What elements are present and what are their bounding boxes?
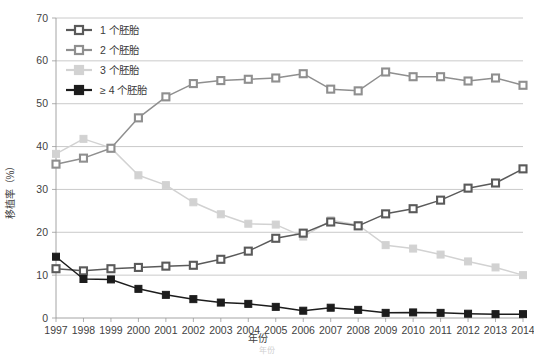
line-chart: 010203040506070 199719981999200020012002… (0, 0, 534, 355)
legend-marker-swatch (75, 66, 83, 74)
data-point (162, 93, 169, 100)
data-point (53, 161, 60, 168)
data-point (162, 182, 169, 189)
data-point (437, 197, 444, 204)
data-point (53, 253, 60, 260)
x-tick-label-2003: 2003 (209, 324, 233, 336)
legend-label: 2 个胚胎 (100, 44, 140, 56)
data-point (382, 69, 389, 76)
x-tick-label-2009: 2009 (374, 324, 398, 336)
data-point (135, 285, 142, 292)
data-point (465, 78, 472, 85)
x-axis-title: 年份 (248, 332, 268, 344)
legend-marker-swatch (75, 86, 83, 94)
legend-item-3[interactable]: 3 个胚胎 (66, 64, 140, 76)
x-tick-label-2011: 2011 (429, 324, 452, 336)
data-point (382, 309, 389, 316)
y-axis-title: 移植率（%） (4, 161, 16, 220)
y-tick-label-50: 50 (36, 97, 48, 109)
data-point (107, 265, 114, 272)
data-point (245, 220, 252, 227)
legend-label: 1 个胚胎 (100, 24, 140, 36)
caption-group: 年份 (259, 345, 275, 355)
data-point (162, 291, 169, 298)
data-point (217, 77, 224, 84)
data-point (437, 309, 444, 316)
y-tick-label-60: 60 (36, 54, 48, 66)
data-point (465, 310, 472, 317)
data-point (410, 309, 417, 316)
data-point (272, 221, 279, 228)
data-point (410, 73, 417, 80)
data-point (300, 70, 307, 77)
x-tick-label-2008: 2008 (346, 324, 370, 336)
data-point (217, 211, 224, 218)
data-point (80, 267, 87, 274)
data-point (382, 210, 389, 217)
data-point (327, 86, 334, 93)
y-tick-label-40: 40 (36, 140, 48, 152)
data-point (355, 306, 362, 313)
data-point (190, 199, 197, 206)
legend-item-2[interactable]: 2 个胚胎 (66, 44, 140, 56)
data-point (272, 75, 279, 82)
data-point (217, 256, 224, 263)
legend-label: ≥ 4 个胚胎 (100, 84, 148, 96)
data-point (355, 222, 362, 229)
data-point (410, 205, 417, 212)
data-point (520, 272, 527, 279)
figure-caption: 年份 (259, 345, 275, 355)
x-tick-label-2000: 2000 (127, 324, 151, 336)
y-tick-label-30: 30 (36, 183, 48, 195)
x-tick-label-2001: 2001 (154, 324, 178, 336)
data-point (492, 264, 499, 271)
legend-marker-swatch (75, 46, 83, 54)
data-point (80, 135, 87, 142)
data-point (300, 307, 307, 314)
data-point (465, 258, 472, 265)
x-tick-label-2002: 2002 (182, 324, 206, 336)
data-point (80, 276, 87, 283)
legend-label: 3 个胚胎 (100, 64, 140, 76)
data-point (492, 75, 499, 82)
data-point (300, 230, 307, 237)
legend-marker-swatch (75, 26, 83, 34)
data-point (190, 80, 197, 87)
data-point (520, 165, 527, 172)
x-tick-label-2012: 2012 (456, 324, 480, 336)
x-tick-label-2014: 2014 (511, 324, 534, 336)
y-tick-label-70: 70 (36, 12, 48, 24)
data-point (465, 185, 472, 192)
x-tick-label-1998: 1998 (72, 324, 96, 336)
data-point (245, 300, 252, 307)
data-point (327, 219, 334, 226)
legend-item-1[interactable]: 1 个胚胎 (66, 24, 140, 36)
data-point (520, 311, 527, 318)
data-point (437, 251, 444, 258)
data-point (190, 296, 197, 303)
data-point (135, 114, 142, 121)
data-point (53, 150, 60, 157)
data-point (80, 155, 87, 162)
data-point (492, 180, 499, 187)
y-tick-label-0: 0 (42, 312, 48, 324)
data-point (410, 245, 417, 252)
x-tick-label-1997: 1997 (44, 324, 68, 336)
y-tick-label-10: 10 (36, 269, 48, 281)
y-tick-label-20: 20 (36, 226, 48, 238)
x-tick-label-2007: 2007 (319, 324, 343, 336)
chart-container: 010203040506070 199719981999200020012002… (0, 0, 534, 355)
data-point (107, 145, 114, 152)
data-point (272, 303, 279, 310)
data-point (272, 235, 279, 242)
x-tick-label-2006: 2006 (292, 324, 316, 336)
data-point (217, 299, 224, 306)
data-point (107, 276, 114, 283)
data-point (162, 263, 169, 270)
x-axis-title-group: 年份 (248, 332, 268, 344)
legend-item-4[interactable]: ≥ 4 个胚胎 (66, 84, 148, 96)
data-point (135, 172, 142, 179)
y-axis-title-group: 移植率（%） (4, 161, 16, 220)
data-point (437, 73, 444, 80)
data-point (245, 248, 252, 255)
